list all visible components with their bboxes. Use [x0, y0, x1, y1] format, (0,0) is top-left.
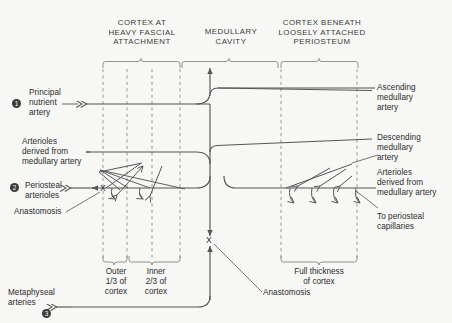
- label-metaphyseal-arteries: Metaphyseal arteries: [8, 288, 66, 308]
- label-to-periosteal-capillaries: To periosteal capillaries: [377, 212, 447, 232]
- left-arteriole-fan: [100, 170, 185, 189]
- header-medullary-cavity: MEDULLARY CAVITY: [186, 27, 276, 46]
- anastomosis-bottom-leader: [214, 244, 262, 292]
- diagram-canvas: CORTEX AT HEAVY FASCIAL ATTACHMENT MEDUL…: [0, 0, 452, 323]
- top-brackets: [103, 59, 358, 69]
- label-outer-third-cortex: Outer 1/3 of cortex: [95, 267, 137, 298]
- periosteal-capillaries-leader: [356, 191, 378, 208]
- right-arteriole-branches: [286, 164, 360, 203]
- right-arteriole-leader: [352, 155, 378, 163]
- label-principal-nutrient-artery: Principal nutrient artery: [29, 88, 81, 119]
- label-arterioles-from-medullary-left: Arterioles derived from medullary artery: [22, 137, 102, 168]
- label-anastomosis-left: Anastomosis: [14, 207, 74, 217]
- label-anastomosis-bottom: Anastomosis: [263, 288, 327, 298]
- bullet-marker-3: 3: [42, 309, 51, 318]
- upper-cortical-vessel: [86, 152, 210, 164]
- principal-nutrient-artery-vessel: [86, 70, 210, 104]
- periosteal-arteriole-vessel: [70, 176, 210, 188]
- label-full-thickness-cortex: Full thickness of cortex: [281, 267, 357, 287]
- metaphyseal-artery-vessel: [56, 296, 210, 307]
- header-cortex-heavy-fascial: CORTEX AT HEAVY FASCIAL ATTACHMENT: [96, 18, 188, 47]
- marker-anastomosis-x-left: X: [100, 184, 106, 193]
- label-arterioles-from-medullary-right: Arterioles derived from medullary artery: [377, 168, 451, 199]
- label-descending-medullary-artery: Descending medullary artery: [377, 133, 447, 164]
- label-inner-two-thirds-cortex: Inner 2/3 of cortex: [135, 267, 177, 298]
- right-cortical-vessel: [224, 176, 376, 188]
- bullet-marker-2: 2: [10, 183, 19, 192]
- bullet-marker-1: 1: [12, 99, 21, 108]
- ascending-medullary-artery-vessel: [210, 88, 375, 96]
- header-cortex-loose-periosteum: CORTEX BENEATH LOOSELY ATTACHED PERIOSTE…: [272, 18, 372, 47]
- marker-anastomosis-x-center: X: [206, 236, 212, 245]
- label-ascending-medullary-artery: Ascending medullary artery: [377, 83, 447, 114]
- label-periosteal-arterioles: Periosteal arterioles: [25, 181, 83, 201]
- descending-medullary-artery-vessel: [210, 139, 372, 152]
